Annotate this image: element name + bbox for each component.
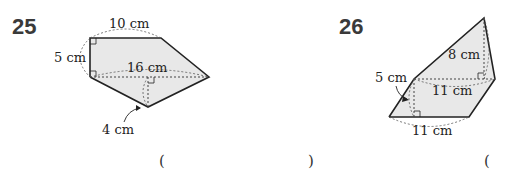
label-26-lower-height: 5 cm [375, 70, 407, 85]
figure-25-pentagon [80, 29, 209, 122]
figures: 10 cm 5 cm 16 cm 4 cm 8 cm 5 cm 11 cm 11… [0, 0, 509, 175]
label-25-left: 5 cm [54, 50, 86, 65]
answer-25-open-paren: ( [159, 152, 165, 170]
answer-26-open-paren: ( [484, 152, 490, 170]
label-25-height: 4 cm [102, 122, 134, 137]
label-26-diagonal: 11 cm [432, 83, 472, 98]
label-26-upper-height: 8 cm [448, 47, 480, 62]
label-25-diagonal: 16 cm [127, 60, 167, 75]
label-25-top: 10 cm [109, 16, 149, 31]
answer-25-close-paren: ) [308, 152, 314, 170]
label-26-bottom: 11 cm [412, 123, 452, 138]
